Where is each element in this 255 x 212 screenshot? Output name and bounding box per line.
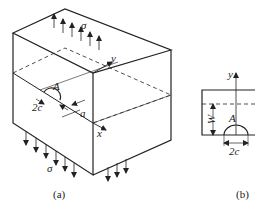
caption-a: (a) [53,188,66,201]
label-w: W [205,114,217,124]
label-sigma-top: σ [81,19,87,31]
block-top-face [13,9,171,73]
label-point-a: A [52,80,60,92]
figure-canvas: σ σ A 2c a y x (a) y A W 2c (b) [0,0,255,212]
dim-a-arrow [72,100,85,105]
caption-b: (b) [236,188,249,201]
label-axis-y-b: y [227,68,233,80]
block-left-edge [13,33,93,175]
crack-plane-line [93,95,171,123]
figure-a [13,9,171,181]
block-right-edge [93,50,171,175]
dim-2c-line2 [60,105,68,110]
label-axis-y: y [110,52,116,64]
label-2c-b: 2c [229,145,240,157]
stress-arrows-bottom [26,131,126,181]
label-a-depth: a [80,107,86,119]
label-point-a-b: A [228,112,236,124]
label-sigma-bottom: σ [47,162,53,174]
label-2c: 2c [32,101,43,113]
figure-b [202,73,255,146]
label-axis-x: x [96,127,102,139]
